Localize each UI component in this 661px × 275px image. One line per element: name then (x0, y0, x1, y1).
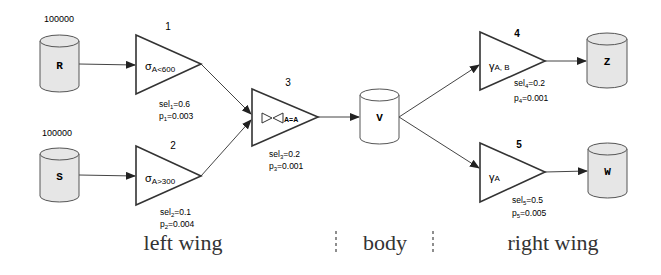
operator-2[interactable]: 2 σA>300 sel2=0.1 p2=0.004 (136, 140, 201, 230)
section-label-right-wing: right wing (507, 230, 598, 255)
operator-4-selectivity: sel4=0.2 (514, 78, 545, 89)
edge-v-to-op5 (399, 117, 479, 168)
operator-3-selectivity: sel3=0.2 (269, 149, 300, 160)
source-r-count: 100000 (44, 14, 74, 24)
operator-5-probability: p5=0.005 (512, 208, 547, 219)
edge-op5-to-w (545, 171, 587, 172)
operator-3[interactable]: 3 A=A sel3=0.2 p3=0.001 (252, 77, 318, 172)
edge-r-to-op1 (79, 64, 135, 65)
view-v-cylinder[interactable]: V (360, 89, 399, 144)
source-s-label: S (56, 171, 63, 183)
operator-4[interactable]: 4 γA, B sel4=0.2 p4=0.001 (480, 28, 549, 104)
operator-3-number: 3 (285, 77, 291, 88)
operator-5-selectivity: sel5=0.5 (512, 195, 543, 206)
operator-2-probability: p2=0.004 (160, 219, 195, 230)
source-s-cylinder[interactable]: S (40, 148, 79, 202)
target-z-cylinder[interactable]: Z (587, 33, 627, 88)
operator-4-probability: p4=0.001 (514, 93, 549, 104)
edge-v-to-op4 (399, 65, 479, 117)
operator-1[interactable]: 1 σA<600 sel1=0.6 p1=0.003 (136, 21, 201, 122)
operator-1-probability: p1=0.003 (159, 111, 194, 122)
operator-1-selectivity: sel1=0.6 (159, 99, 190, 110)
operator-4-number: 4 (514, 28, 520, 39)
operator-2-number: 2 (170, 140, 176, 151)
target-z-label: Z (604, 56, 611, 68)
edge-s-to-op2 (79, 175, 135, 176)
view-v-label: V (376, 112, 383, 124)
operator-1-number: 1 (165, 21, 171, 32)
operator-5-number: 5 (516, 139, 522, 150)
source-s-count: 100000 (42, 128, 72, 138)
edge-op1-to-op3 (201, 64, 251, 114)
source-r-cylinder[interactable]: R (40, 35, 79, 92)
operator-3-probability: p3=0.001 (269, 161, 304, 172)
operator-5[interactable]: 5 γA sel5=0.5 p5=0.005 (480, 139, 547, 219)
workflow-diagram: R 100000 S 100000 V Z W 1 σA<600 sel1=0.… (0, 0, 661, 275)
source-r-label: R (56, 60, 63, 72)
target-w-cylinder[interactable]: W (588, 143, 627, 198)
section-label-left-wing: left wing (144, 230, 223, 255)
operator-3-condition: A=A (284, 116, 298, 123)
section-label-body: body (363, 230, 407, 255)
edge-op2-to-op3 (201, 120, 251, 176)
target-w-label: W (604, 166, 611, 178)
operator-2-selectivity: sel2=0.1 (160, 207, 191, 218)
